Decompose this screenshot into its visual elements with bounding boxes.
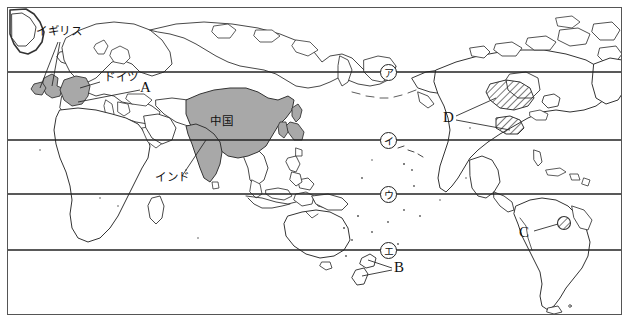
map-contents [8, 8, 628, 314]
worksheet-page: イギリス ドイツ 中国 インド A B C D ア イ ウ エ [0, 0, 638, 323]
label-c: C [519, 225, 530, 240]
region-hatched-chile [558, 217, 571, 230]
region-sri-lanka [212, 182, 219, 189]
world-map-graphic [0, 0, 638, 323]
latitude-marker-a: ア [380, 64, 397, 81]
latitude-marker-e: エ [380, 242, 397, 259]
latitude-marker-i: イ [380, 132, 397, 149]
label-china: 中国 [210, 116, 233, 128]
label-a: A [140, 80, 151, 95]
label-d: D [443, 110, 454, 125]
label-b: B [394, 260, 405, 275]
label-uk: イギリス [36, 26, 82, 38]
label-germany: ドイツ [104, 72, 139, 84]
label-india: インド [155, 172, 190, 184]
latitude-marker-u: ウ [380, 186, 397, 203]
